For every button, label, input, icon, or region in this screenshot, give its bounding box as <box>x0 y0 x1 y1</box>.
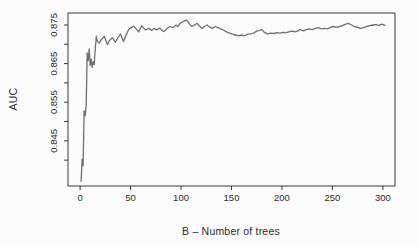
y-tick-label: 0.865 <box>48 52 59 76</box>
auc-series-line <box>81 20 385 181</box>
chart-canvas: 0501001502002503000.8450.8550.8650.875 <box>0 0 419 246</box>
auc-vs-trees-figure: 0501001502002503000.8450.8550.8650.875 A… <box>0 0 419 246</box>
y-axis-label: AUC <box>7 88 19 111</box>
y-tick-label: 0.875 <box>48 13 59 37</box>
x-tick-label: 200 <box>274 192 290 203</box>
x-tick-label: 0 <box>77 192 82 203</box>
x-axis-label: B – Number of trees <box>182 225 280 237</box>
x-tick-label: 150 <box>224 192 240 203</box>
y-tick-label: 0.855 <box>48 90 59 114</box>
x-tick-label: 300 <box>375 192 391 203</box>
y-tick-label: 0.845 <box>48 129 59 153</box>
x-tick-label: 100 <box>173 192 189 203</box>
x-tick-label: 50 <box>125 192 136 203</box>
x-tick-label: 250 <box>324 192 340 203</box>
